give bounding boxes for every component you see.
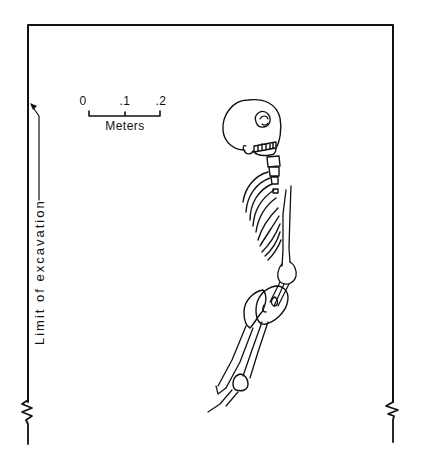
frame-top-line bbox=[28, 25, 393, 402]
ribcage bbox=[243, 172, 281, 260]
skull-eye-inner bbox=[260, 116, 268, 125]
scale-bar-line bbox=[89, 111, 160, 116]
scale-tick-label-0: 0 bbox=[79, 94, 86, 108]
excavation-limit-label: Limit of excavation bbox=[32, 199, 47, 345]
skull-ear bbox=[243, 146, 246, 151]
scale-tick-label-2: .2 bbox=[155, 94, 166, 108]
excavation-limit-annotation: Limit of excavation bbox=[30, 103, 47, 345]
arrowhead-icon bbox=[30, 103, 37, 110]
rib bbox=[256, 198, 276, 232]
scale-bar: 0 .1 .2 Meters bbox=[79, 94, 166, 133]
patella bbox=[233, 374, 248, 391]
skeleton bbox=[208, 100, 296, 412]
femur-right bbox=[243, 322, 268, 378]
elbow-joint bbox=[278, 262, 296, 284]
scale-unit-label: Meters bbox=[105, 119, 145, 133]
forearm-bones bbox=[270, 282, 289, 306]
tibia bbox=[208, 390, 238, 412]
left-break-symbol bbox=[22, 398, 32, 444]
teeth bbox=[254, 142, 276, 152]
right-break-symbol bbox=[386, 398, 398, 442]
rib bbox=[253, 190, 274, 226]
femur-left-distal bbox=[216, 386, 226, 394]
scale-tick-label-1: .1 bbox=[119, 94, 130, 108]
femur-left bbox=[218, 326, 253, 388]
humerus bbox=[282, 186, 291, 266]
leader-arrow-line bbox=[32, 106, 39, 200]
cervical-vertebrae bbox=[267, 156, 280, 193]
excavation-frame bbox=[22, 25, 398, 444]
skull bbox=[223, 100, 281, 156]
burial-plan-drawing: Limit of excavation 0 .1 .2 Meters bbox=[0, 0, 422, 463]
